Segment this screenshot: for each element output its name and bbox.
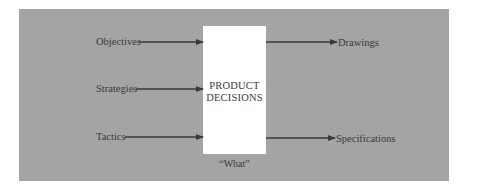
arrows-layer — [0, 0, 488, 193]
